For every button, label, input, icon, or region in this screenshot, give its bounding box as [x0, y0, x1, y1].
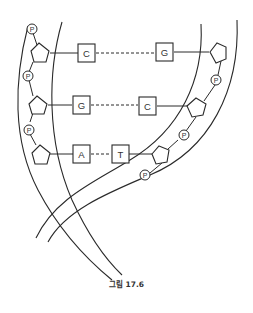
- svg-text:P: P: [27, 127, 32, 134]
- phosphate-circle: P: [211, 75, 221, 85]
- phosphate-circle: P: [140, 170, 150, 180]
- base-label-left: G: [78, 100, 85, 111]
- base-pair-row-2: G C: [48, 96, 188, 115]
- base-label-left: C: [83, 48, 90, 59]
- base-label-right: G: [161, 47, 168, 58]
- sugar-pentagon-icon: [187, 98, 206, 117]
- svg-text:P: P: [30, 26, 35, 33]
- base-label-right: T: [118, 149, 124, 160]
- base-label-right: C: [144, 101, 151, 112]
- phosphate-circle: P: [179, 130, 189, 140]
- svg-text:P: P: [143, 172, 148, 179]
- sugar-pentagon-icon: [29, 96, 47, 114]
- base-pair-row-3: A T: [50, 145, 152, 163]
- sugar-pentagon-icon: [32, 145, 50, 164]
- svg-text:P: P: [214, 77, 219, 84]
- sugar-pentagon-icon: [152, 146, 169, 164]
- dna-diagram: C G G C A T P P: [0, 0, 253, 313]
- sugar-pentagon-icon: [210, 43, 226, 63]
- base-label-left: A: [78, 149, 85, 160]
- phosphate-circle: P: [23, 71, 33, 81]
- phosphate-circle: P: [24, 125, 34, 135]
- right-strand-inner-rail: [36, 24, 201, 238]
- phosphate-circle: P: [27, 24, 37, 34]
- figure-caption: 그림 17.6: [0, 278, 253, 289]
- base-pair-row-1: C G: [50, 43, 209, 62]
- svg-text:P: P: [182, 132, 187, 139]
- svg-text:P: P: [26, 73, 31, 80]
- sugar-pentagon-icon: [31, 43, 49, 62]
